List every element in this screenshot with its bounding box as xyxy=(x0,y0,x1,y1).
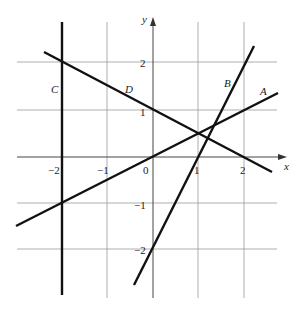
x-tick: −2 xyxy=(48,164,60,176)
y-tick: −1 xyxy=(134,199,146,211)
y-axis-arrow-icon xyxy=(150,17,156,26)
y-tick: 1 xyxy=(140,106,146,118)
x-axis-label: x xyxy=(283,160,289,172)
label-c: C xyxy=(51,83,59,95)
x-tick: 1 xyxy=(194,164,200,176)
label-a: A xyxy=(259,85,267,97)
line-a xyxy=(16,93,278,226)
y-axis-label: y xyxy=(141,13,147,25)
y-tick: −2 xyxy=(134,244,146,256)
x-tick: −1 xyxy=(97,164,109,176)
x-tick: 2 xyxy=(240,164,246,176)
label-d: D xyxy=(124,83,133,95)
coordinate-plane: C D B A y x −2 −1 0 1 2 2 1 −1 −2 xyxy=(0,0,302,313)
label-b: B xyxy=(224,77,231,89)
x-tick: 0 xyxy=(143,164,149,176)
y-tick: 2 xyxy=(140,57,146,69)
